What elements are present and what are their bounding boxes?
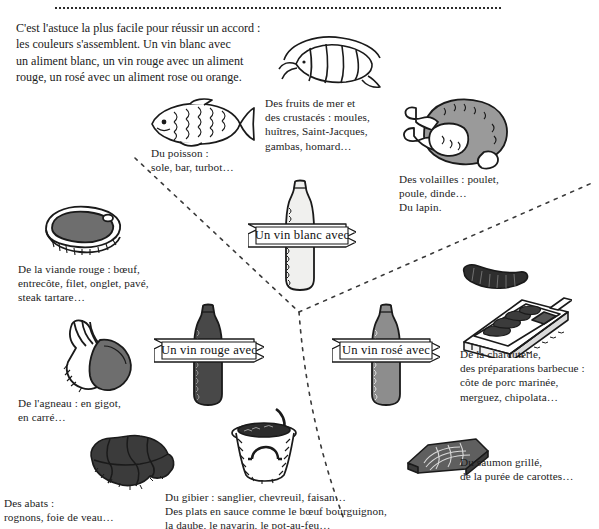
- caption-fruits-de-mer: Des fruits de mer et des crustacés : mou…: [265, 96, 405, 153]
- banner-rose-wine-label: Un vin rosé avec: [342, 343, 430, 358]
- banner-red-wine-label: Un vin rouge avec: [161, 343, 257, 358]
- caption-volailles: Des volailles : poulet, poule, dinde… Du…: [399, 172, 549, 215]
- banner-white-wine-label: Un vin blanc avec: [255, 228, 350, 243]
- caption-viande-rouge: De la viande rouge : bœuf, entrecôte, fi…: [18, 262, 193, 305]
- caption-gibier: Du gibier : sanglier, chevreuil, faisan……: [165, 490, 495, 529]
- banner-white-wine: Un vin blanc avec: [248, 222, 356, 249]
- banner-rose-wine: Un vin rosé avec: [332, 337, 440, 364]
- banner-red-wine: Un vin rouge avec: [154, 337, 264, 364]
- caption-agneau: De l'agneau : en gigot, en carré…: [18, 396, 168, 424]
- caption-poisson: Du poisson : sole, bar, turbot…: [151, 146, 281, 174]
- wine-pairing-infographic: C'est l'astuce la plus facile pour réuss…: [0, 0, 599, 529]
- caption-saumon: Du saumon grillé, de la purée de carotte…: [460, 455, 599, 483]
- caption-abats: Des abats : rognons, foie de veau…: [4, 496, 164, 524]
- caption-charcuterie: De la charcuterie, des préparations barb…: [460, 347, 599, 404]
